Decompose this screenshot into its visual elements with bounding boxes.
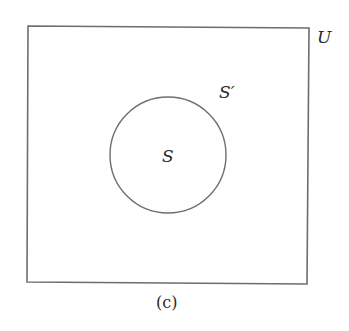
complement-label: S′ xyxy=(219,84,235,101)
figure-caption: (c) xyxy=(156,295,177,311)
venn-diagram-svg xyxy=(0,0,349,331)
universe-label: U xyxy=(317,29,331,46)
set-s-label: S xyxy=(162,148,174,165)
venn-diagram: U S′ S (c) xyxy=(0,0,349,331)
